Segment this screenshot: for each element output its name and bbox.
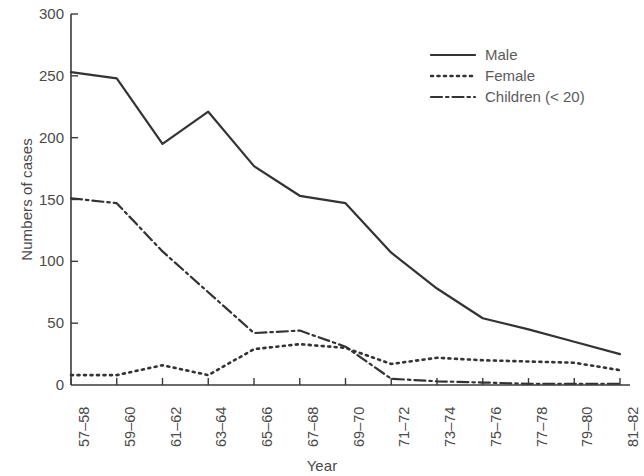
series-line-male: [71, 72, 620, 354]
legend-item-children-20: Children (< 20): [430, 86, 585, 107]
legend-item-female: Female: [430, 65, 585, 86]
chart-legend: MaleFemaleChildren (< 20): [430, 44, 585, 107]
series-line-children-20: [71, 198, 620, 384]
legend-label: Female: [485, 68, 535, 83]
solid-line-key: [430, 49, 476, 61]
dotted-line-key: [430, 70, 476, 82]
line-chart: Numbers of cases Year 050100150200250300…: [0, 0, 644, 476]
series-line-female: [71, 344, 620, 375]
legend-label: Children (< 20): [485, 89, 585, 104]
legend-item-male: Male: [430, 44, 585, 65]
dashdot-line-key: [430, 91, 476, 103]
legend-label: Male: [485, 47, 518, 62]
